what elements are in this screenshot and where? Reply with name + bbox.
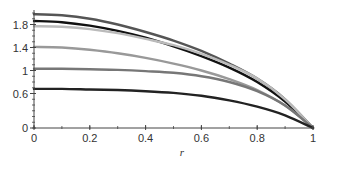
x-tick-label: 1 [310,132,316,144]
series-layer [34,14,313,128]
y-tick-label: 0 [22,122,28,134]
x-tick-label: 0.4 [138,132,153,144]
x-tick-label: 0.2 [82,132,97,144]
y-tick-label: 1 [22,65,28,77]
x-tick-label: 0.8 [250,132,265,144]
series-line-curve-5 [34,69,313,128]
line-chart: 00.611.41.8 00.20.40.60.81 r [0,0,339,171]
x-tick-label: 0.6 [194,132,209,144]
y-tick-label: 0.6 [13,88,28,100]
series-line-curve-6 [34,89,313,128]
y-tick-label: 1.4 [13,42,28,54]
y-ticks: 00.611.41.8 [13,13,36,134]
axes: 00.611.41.8 00.20.40.60.81 r [13,10,316,158]
x-tick-label: 0 [31,132,37,144]
series-line-curve-2 [34,21,313,128]
y-tick-label: 1.8 [13,19,28,31]
x-axis-label: r [180,146,185,158]
